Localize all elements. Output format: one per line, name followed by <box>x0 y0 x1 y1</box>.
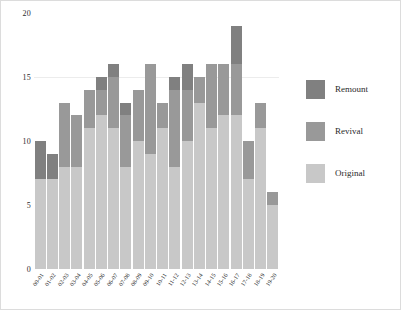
bar-segment-remount[interactable] <box>47 154 58 180</box>
bar-segment-revival[interactable] <box>206 64 217 128</box>
x-tick-label: 05-06 <box>93 272 106 287</box>
bar-stack[interactable] <box>83 13 95 269</box>
bar-stack[interactable] <box>181 13 193 269</box>
bar-segment-original[interactable] <box>133 141 144 269</box>
bar-segment-remount[interactable] <box>108 64 119 77</box>
bar-stack[interactable] <box>34 13 46 269</box>
bar-segment-revival[interactable] <box>108 77 119 128</box>
chart-figure: 05101520 00-0101-0202-0303-0404-0505-060… <box>0 0 401 310</box>
bar-segment-remount[interactable] <box>120 103 131 116</box>
bar-segment-revival[interactable] <box>84 90 95 128</box>
bar-segment-original[interactable] <box>96 115 107 269</box>
legend-label: Original <box>335 168 365 178</box>
bar-stack[interactable] <box>267 13 279 269</box>
bar-segment-revival[interactable] <box>157 103 168 129</box>
legend-item-original[interactable]: Original <box>306 163 396 183</box>
bar-segment-original[interactable] <box>182 141 193 269</box>
y-tick-label: 15 <box>23 73 31 82</box>
legend-swatch-icon <box>306 122 325 141</box>
legend-swatch-icon <box>306 80 325 99</box>
bar-segment-remount[interactable] <box>35 141 46 179</box>
x-tick-label: 18-19 <box>252 272 265 287</box>
y-tick-label: 10 <box>23 137 31 146</box>
bar-segment-remount[interactable] <box>96 77 107 90</box>
bar-segment-revival[interactable] <box>169 90 180 167</box>
bar-segment-original[interactable] <box>243 179 254 269</box>
legend-item-remount[interactable]: Remount <box>306 79 396 99</box>
bar-segment-original[interactable] <box>108 128 119 269</box>
x-tick: 19-20 <box>267 270 279 310</box>
bar-segment-remount[interactable] <box>169 77 180 90</box>
x-tick-label: 02-03 <box>56 272 69 287</box>
bar-segment-revival[interactable] <box>255 103 266 129</box>
bar-segment-revival[interactable] <box>231 64 242 115</box>
bar-stack[interactable] <box>230 13 242 269</box>
bar-stack[interactable] <box>157 13 169 269</box>
x-tick: 08-09 <box>132 270 144 310</box>
legend-item-revival[interactable]: Revival <box>306 121 396 141</box>
bar-stack[interactable] <box>71 13 83 269</box>
legend-label: Remount <box>335 84 368 94</box>
bar-segment-revival[interactable] <box>194 77 205 103</box>
bar-segment-original[interactable] <box>71 167 82 269</box>
bar-segment-original[interactable] <box>194 103 205 269</box>
bar-segment-revival[interactable] <box>145 64 156 154</box>
bar-stack[interactable] <box>46 13 58 269</box>
bar-segment-original[interactable] <box>267 205 278 269</box>
bar-segment-revival[interactable] <box>243 141 254 179</box>
bar-segment-original[interactable] <box>35 179 46 269</box>
bar-segment-revival[interactable] <box>59 103 70 167</box>
bar-stack[interactable] <box>218 13 230 269</box>
bar-stack[interactable] <box>95 13 107 269</box>
bar-segment-revival[interactable] <box>96 90 107 116</box>
y-tick-label: 5 <box>27 201 31 210</box>
bar-segment-original[interactable] <box>157 128 168 269</box>
bar-stack[interactable] <box>59 13 71 269</box>
bar-stack[interactable] <box>242 13 254 269</box>
bar-stack[interactable] <box>206 13 218 269</box>
bar-segment-revival[interactable] <box>267 192 278 205</box>
x-tick-label: 03-04 <box>69 272 82 287</box>
bar-segment-original[interactable] <box>120 167 131 269</box>
bar-segment-original[interactable] <box>84 128 95 269</box>
bar-segment-revival[interactable] <box>133 90 144 141</box>
bar-stack[interactable] <box>108 13 120 269</box>
bar-segment-original[interactable] <box>218 115 229 269</box>
legend-swatch-icon <box>306 164 325 183</box>
x-tick-label: 19-20 <box>265 272 278 287</box>
bar-segment-original[interactable] <box>59 167 70 269</box>
x-tick-label: 13-14 <box>191 272 204 287</box>
bar-segment-revival[interactable] <box>218 64 229 115</box>
bar-segment-revival[interactable] <box>120 115 131 166</box>
bar-segment-revival[interactable] <box>182 90 193 141</box>
x-tick: 17-18 <box>242 270 254 310</box>
bar-stack[interactable] <box>132 13 144 269</box>
bar-stack[interactable] <box>144 13 156 269</box>
y-tick-label: 20 <box>23 9 31 18</box>
x-tick: 06-07 <box>108 270 120 310</box>
bar-stack[interactable] <box>120 13 132 269</box>
bar-segment-original[interactable] <box>206 128 217 269</box>
x-tick-label: 06-07 <box>105 272 118 287</box>
bar-stack[interactable] <box>169 13 181 269</box>
bar-segment-remount[interactable] <box>231 26 242 64</box>
x-tick: 01-02 <box>46 270 58 310</box>
bar-segment-original[interactable] <box>231 115 242 269</box>
bar-segment-original[interactable] <box>255 128 266 269</box>
bar-segment-revival[interactable] <box>71 115 82 166</box>
x-tick-label: 11-12 <box>167 272 180 287</box>
bar-stack[interactable] <box>193 13 205 269</box>
x-tick: 09-10 <box>144 270 156 310</box>
bar-group <box>34 13 279 269</box>
x-tick: 12-13 <box>181 270 193 310</box>
bar-segment-original[interactable] <box>169 167 180 269</box>
bar-segment-original[interactable] <box>47 179 58 269</box>
x-tick-label: 17-18 <box>240 272 253 287</box>
y-axis: 05101520 <box>1 1 31 310</box>
bar-segment-original[interactable] <box>145 154 156 269</box>
x-axis: 00-0101-0202-0303-0404-0505-0606-0707-08… <box>34 270 279 310</box>
x-tick-label: 14-15 <box>203 272 216 287</box>
bar-segment-remount[interactable] <box>182 64 193 90</box>
x-tick-label: 01-02 <box>44 272 57 287</box>
bar-stack[interactable] <box>255 13 267 269</box>
